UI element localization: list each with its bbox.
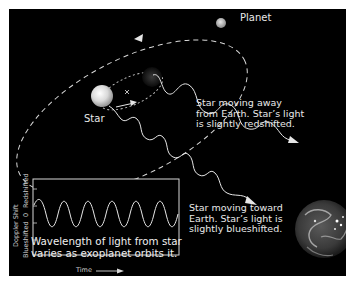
x-axis-title: Time (76, 267, 92, 274)
y-axis-title: Doppler Shift (12, 204, 20, 247)
blueshift-description: Star moving toward Earth. Star’s light i… (189, 203, 283, 235)
y-tick-redshifted: Redshifted (22, 173, 30, 208)
center-of-mass-icon (125, 90, 129, 94)
planet-label: Planet (240, 12, 271, 23)
diagram-panel: Planet Star Star moving away from Earth.… (9, 9, 346, 276)
redshift-arrow-icon (288, 136, 299, 143)
star-icon (91, 85, 113, 107)
y-tick-blueshifted: Blueshifted (22, 221, 30, 258)
doppler-shift-graph (33, 179, 179, 274)
earth-icon (295, 200, 346, 258)
y-tick-zero: 0 (22, 213, 30, 217)
wobble-arrow-icon (130, 100, 137, 106)
orbit-direction-arrow-icon (134, 34, 143, 42)
graph-caption: Wavelength of light from star varies as … (31, 235, 182, 259)
time-arrow-icon (117, 269, 124, 274)
redshift-description: Star moving away from Earth. Star’s ligh… (196, 98, 304, 130)
star-label: Star (84, 113, 105, 124)
planet-icon (216, 18, 226, 28)
